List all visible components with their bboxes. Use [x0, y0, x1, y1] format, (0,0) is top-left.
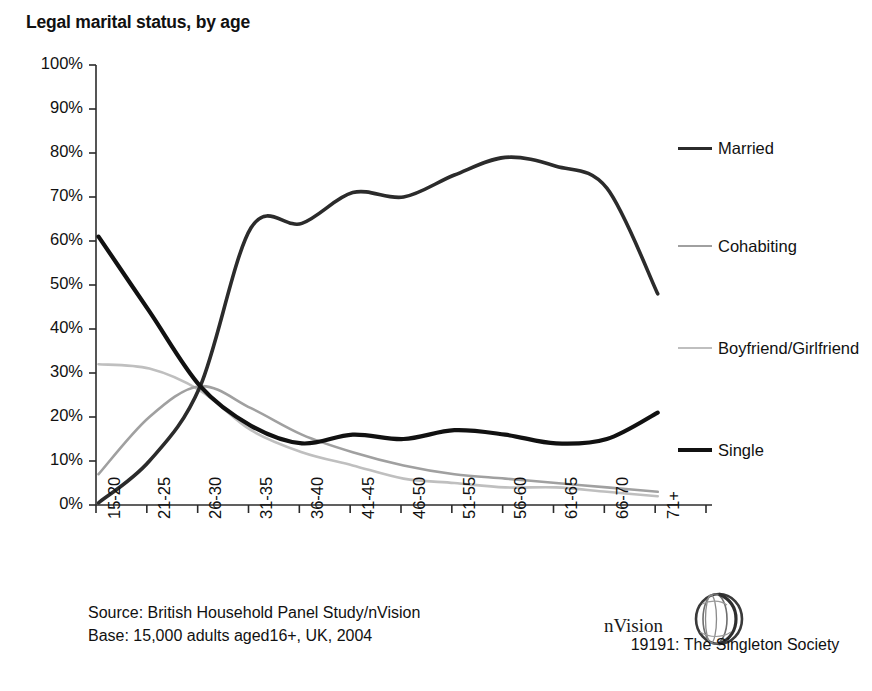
legend-item-married[interactable]: Married: [678, 140, 774, 157]
legend-swatch-icon: [678, 347, 712, 349]
source-note: Source: British Household Panel Study/nV…: [88, 601, 420, 647]
x-axis-tick-label: 66-70: [613, 477, 632, 519]
series-lines: [99, 157, 658, 503]
x-axis-tick-label: 36-40: [308, 477, 327, 519]
y-axis-tick-label: 80%: [17, 142, 83, 161]
x-axis-tick-label: 15-20: [105, 477, 124, 519]
legend-item-single[interactable]: Single: [678, 442, 764, 459]
y-axis-tick-label: 70%: [17, 186, 83, 205]
y-axis-tick-label: 60%: [17, 230, 83, 249]
x-axis-tick-label: 61-65: [562, 477, 581, 519]
legend-label: Married: [718, 140, 774, 157]
x-axis-tick-label: 21-25: [155, 477, 174, 519]
legend-item-cohabiting[interactable]: Cohabiting: [678, 238, 797, 255]
legend-swatch-icon: [678, 245, 712, 247]
brand-caption: 19191: The Singleton Society: [598, 636, 872, 654]
legend-label: Boyfriend/Girlfriend: [718, 340, 859, 357]
brand-name: nVision: [604, 615, 663, 637]
x-axis-tick-label: 46-50: [410, 477, 429, 519]
legend-swatch-icon: [678, 147, 712, 150]
x-axis-tick-label: 56-60: [511, 477, 530, 519]
x-axis-tick-label: 26-30: [206, 477, 225, 519]
source-line-1: Source: British Household Panel Study/nV…: [88, 604, 420, 621]
y-axis-tick-label: 10%: [17, 450, 83, 469]
y-axis-tick-label: 40%: [17, 318, 83, 337]
legend-item-boyfriend-girlfriend[interactable]: Boyfriend/Girlfriend: [678, 340, 859, 357]
x-axis-tick-label: 71+: [664, 491, 683, 519]
y-axis-tick-label: 0%: [17, 494, 83, 513]
legend-swatch-icon: [678, 448, 712, 452]
chart-page: Legal marital status, by age 0%10%20%30%…: [0, 0, 872, 691]
brand-block: nVision 19191: The Singleton Society: [598, 588, 872, 658]
series-line-single: [99, 237, 658, 444]
y-axis-tick-label: 50%: [17, 274, 83, 293]
x-axis-tick-label: 31-35: [257, 477, 276, 519]
x-axis-tick-label: 51-55: [460, 477, 479, 519]
source-line-2: Base: 15,000 adults aged16+, UK, 2004: [88, 624, 420, 647]
x-axis-tick-label: 41-45: [359, 477, 378, 519]
axes: [89, 65, 712, 513]
y-axis-tick-label: 20%: [17, 406, 83, 425]
y-axis-tick-label: 90%: [17, 98, 83, 117]
legend-label: Cohabiting: [718, 238, 797, 255]
series-line-married: [99, 157, 658, 503]
y-axis-tick-label: 30%: [17, 362, 83, 381]
legend-label: Single: [718, 442, 764, 459]
y-axis-tick-label: 100%: [17, 54, 83, 73]
